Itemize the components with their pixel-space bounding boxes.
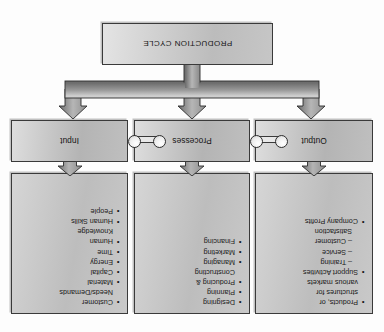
list-item: structures for (263, 288, 365, 297)
list-item: – Training (263, 258, 365, 267)
stage-label-input: Input (60, 136, 79, 146)
connector-knob-left (153, 135, 166, 148)
list-item: Marketing (142, 247, 242, 256)
list-item: Material (19, 278, 120, 287)
list-item: Needs/Demands (19, 288, 120, 297)
list-item: Managing (142, 258, 242, 267)
list-item: Capital (19, 268, 120, 277)
list-item: Products, or (263, 298, 365, 307)
list-item: Financing (142, 237, 242, 246)
up-arrow-icon-input (57, 161, 83, 176)
dumbbell-connector-icon-processes-input (128, 133, 166, 149)
connector-knob-right (250, 135, 263, 148)
content-panel-input: Customer Needs/Demands Material Capital … (11, 173, 128, 314)
list-item: Producing & (142, 278, 242, 287)
processes-item-list: Designing Planning Producing & Construct… (142, 237, 242, 307)
tree-arrow-icon-production-cycle (55, 57, 328, 119)
list-item: – Customer (263, 237, 365, 246)
list-item: various markets (263, 278, 365, 287)
up-arrow-icon-processes (179, 161, 205, 176)
list-item: People (19, 207, 120, 216)
content-panel-processes: Designing Planning Producing & Construct… (134, 173, 250, 314)
dumbbell-connector-icon-output-processes (250, 133, 288, 149)
up-arrow-icon-output (301, 161, 327, 176)
list-item: Designing (142, 298, 242, 307)
list-item: Energy (19, 258, 120, 267)
list-item: Time (19, 247, 120, 256)
list-item: – Service (263, 247, 365, 256)
input-item-list: Customer Needs/Demands Material Capital … (19, 207, 120, 307)
connector-knob-right (128, 135, 141, 148)
list-item: Constructing (142, 268, 242, 277)
list-item: Support Activities (263, 268, 365, 277)
production-cycle-label: PRODUCTION CYCLE (143, 40, 232, 49)
output-item-list: Products, or structures for various mark… (263, 217, 365, 307)
content-panel-output: Products, or structures for various mark… (255, 173, 373, 314)
list-item: Company Profits (263, 217, 365, 226)
list-item: Human (19, 237, 120, 246)
list-item: Satisfaction (263, 227, 365, 236)
list-item: Human Skills (19, 217, 120, 226)
list-item: Planning (142, 288, 242, 297)
production-cycle-panel: PRODUCTION CYCLE (102, 23, 273, 65)
stage-label-output: Output (301, 136, 327, 146)
stage-label-processes: Processes (172, 136, 212, 146)
list-item: Knowledge (19, 227, 120, 236)
connector-knob-left (275, 135, 288, 148)
stage-panel-input: Input (11, 120, 128, 162)
list-item: Customer (19, 298, 120, 307)
production-cycle-diagram: Products, or structures for various mark… (0, 0, 384, 332)
